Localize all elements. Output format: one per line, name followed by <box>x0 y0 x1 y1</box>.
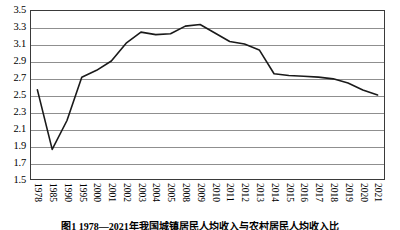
x-axis-tick-label: 2016 <box>299 183 309 202</box>
line-series <box>30 10 385 180</box>
y-axis-tick-label: 3.1 <box>13 39 26 50</box>
x-axis-tick-label: 2013 <box>255 183 265 202</box>
x-axis-tick-label: 2017 <box>314 183 324 202</box>
x-axis-tick-label: 2002 <box>121 183 131 202</box>
x-axis-tick-label: 2020 <box>358 183 368 202</box>
x-axis-tick-label: 2012 <box>240 183 250 202</box>
series-polyline <box>37 24 377 149</box>
figure-caption: 图1 1978—2021年我国城镇居民人均收入与农村居民人均收入比 <box>0 221 400 230</box>
x-axis-tick-label: 2003 <box>136 183 146 202</box>
x-axis-tick-label: 2005 <box>166 183 176 202</box>
x-axis-tick-label: 1990 <box>62 183 72 202</box>
x-axis-tick-label: 2004 <box>151 183 161 202</box>
y-axis-tick-label: 3.3 <box>13 22 26 33</box>
y-axis: 3.53.33.12.92.72.52.32.11.91.71.5 <box>0 0 30 190</box>
x-axis-tick-label: 1985 <box>47 183 57 202</box>
x-axis-tick-label: 2021 <box>373 183 383 202</box>
x-axis-tick-label: 2015 <box>284 183 294 202</box>
y-axis-tick-label: 2.3 <box>13 107 26 118</box>
x-axis-tick-label: 2000 <box>92 183 102 202</box>
x-axis-tick-label: 2010 <box>210 183 220 202</box>
x-axis-tick-label: 2019 <box>343 183 353 202</box>
y-axis-tick-label: 2.5 <box>13 90 26 101</box>
x-axis-tick-label: 1978 <box>33 183 43 202</box>
x-axis-tick-label: 2018 <box>328 183 338 202</box>
y-axis-tick-label: 3.5 <box>13 5 26 16</box>
x-axis-tick-label: 2011 <box>225 183 235 202</box>
x-axis-tick-label: 2009 <box>195 183 205 202</box>
x-axis-tick-label: 2014 <box>269 183 279 202</box>
y-axis-tick-label: 2.1 <box>13 124 26 135</box>
x-axis: 1978198519901995200020012002200320042005… <box>30 181 385 225</box>
y-axis-tick-label: 1.5 <box>13 175 26 186</box>
y-axis-tick-label: 1.9 <box>13 141 26 152</box>
y-axis-tick-label: 1.7 <box>13 158 26 169</box>
figure-container: 3.53.33.12.92.72.52.32.11.91.71.5 197819… <box>0 0 400 230</box>
x-axis-tick-label: 2008 <box>181 183 191 202</box>
y-axis-tick-label: 2.9 <box>13 56 26 67</box>
x-axis-tick-label: 1995 <box>77 183 87 202</box>
x-axis-tick-label: 2001 <box>107 183 117 202</box>
y-axis-tick-label: 2.7 <box>13 73 26 84</box>
